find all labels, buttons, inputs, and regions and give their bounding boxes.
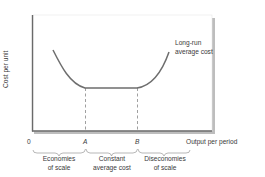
region-diseconomies-line1: Diseconomies xyxy=(135,155,195,163)
curve-label-line1: Long-run xyxy=(175,39,201,47)
y-axis-label: Cost per unit xyxy=(2,51,9,88)
region-economies-line2: of scale xyxy=(30,164,88,172)
region-economies-line1: Economies xyxy=(30,155,88,163)
region-diseconomies-line2: of scale xyxy=(135,164,195,172)
plot-area xyxy=(33,15,212,131)
curve-label-line2: average cost xyxy=(175,48,213,56)
x-axis-label: Output per period xyxy=(186,138,237,146)
frame-shadow-right xyxy=(212,18,215,134)
region-constant-line1: Constant xyxy=(82,155,142,163)
tick-label-a: A xyxy=(83,138,87,146)
region-constant-line2: average cost xyxy=(82,164,142,172)
origin-label: 0 xyxy=(27,138,31,146)
diagram-canvas xyxy=(0,0,265,177)
tick-label-b: B xyxy=(135,138,139,146)
